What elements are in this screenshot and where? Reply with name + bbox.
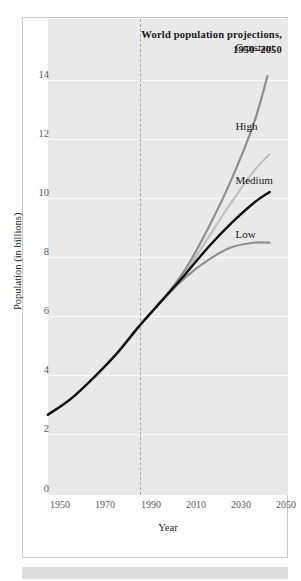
xtick-label-1950: 1950 bbox=[40, 500, 80, 510]
xtick-label-1990: 1990 bbox=[131, 500, 171, 510]
page-footer-bar bbox=[22, 567, 288, 579]
xtick-label-2010: 2010 bbox=[176, 500, 216, 510]
ytick-label-10: 10 bbox=[19, 188, 49, 199]
series-label-high: High bbox=[235, 121, 257, 132]
ytick-label-4: 4 bbox=[19, 365, 49, 376]
xtick-label-1970: 1970 bbox=[85, 500, 125, 510]
population-projection-chart: World population projections, 1950–2050 … bbox=[0, 0, 301, 581]
series-label-constant: Constant bbox=[235, 42, 274, 53]
ytick-label-14: 14 bbox=[19, 70, 49, 81]
ytick-label-8: 8 bbox=[19, 247, 49, 258]
xtick-label-2050: 2050 bbox=[266, 500, 301, 510]
curve-medium bbox=[48, 192, 270, 415]
chart-title-line1: World population projections, bbox=[141, 29, 282, 40]
ytick-label-0: 0 bbox=[19, 484, 49, 495]
figure-canvas: World population projections, 1950–2050 … bbox=[0, 0, 301, 581]
y-axis-title: Population (in billions) bbox=[13, 181, 24, 341]
ytick-label-6: 6 bbox=[19, 306, 49, 317]
ytick-label-2: 2 bbox=[19, 424, 49, 435]
ytick-label-12: 12 bbox=[19, 129, 49, 140]
curve-high bbox=[48, 154, 270, 415]
series-curves bbox=[48, 19, 288, 495]
xtick-label-2030: 2030 bbox=[221, 500, 261, 510]
x-axis-title: Year bbox=[48, 522, 288, 533]
series-label-low: Low bbox=[235, 229, 255, 240]
series-label-medium: Medium bbox=[235, 175, 272, 186]
